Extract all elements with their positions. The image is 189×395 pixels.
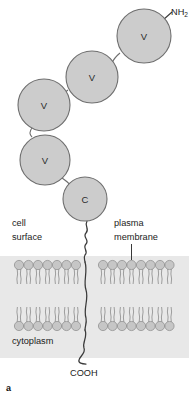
lipid-head <box>71 321 80 330</box>
lipid-head <box>98 321 107 330</box>
lipid-head <box>165 321 174 330</box>
ig-domain-5: C <box>63 177 107 221</box>
ig-domain-letter: C <box>82 194 89 205</box>
lipid-head <box>14 260 23 269</box>
lipid-head <box>62 321 71 330</box>
ig-domain-4: V <box>20 135 70 185</box>
immunoglobulin-superfamily-receptor-diagram: V V V V C NH2 cell surface <box>0 0 189 395</box>
plasma-membrane-label-line2: membrane <box>114 232 158 242</box>
lipid-head <box>62 260 71 269</box>
lipid-head <box>24 260 33 269</box>
lipid-head <box>117 321 126 330</box>
ig-domain-letter: V <box>42 155 49 166</box>
lipid-head <box>136 321 145 330</box>
ig-domain-letter: V <box>141 31 148 42</box>
n-terminus-subscript: 2 <box>184 11 188 18</box>
lipid-head <box>146 321 155 330</box>
lipid-head <box>33 321 42 330</box>
lipid-head <box>136 260 145 269</box>
lipid-head <box>43 321 52 330</box>
lipid-head <box>127 260 136 269</box>
lipid-head <box>108 260 117 269</box>
lipid-head <box>43 260 52 269</box>
figure-panel-a: V V V V C NH2 cell surface <box>0 0 189 395</box>
lipid-head <box>71 260 80 269</box>
lipid-head <box>52 321 61 330</box>
c-terminus-label: COOH <box>70 368 98 378</box>
lipid-head <box>165 260 174 269</box>
lipid-head <box>117 260 126 269</box>
lipid-head <box>33 260 42 269</box>
lipid-head <box>155 321 164 330</box>
lipid-head <box>146 260 155 269</box>
ig-domain-2: V <box>66 51 118 103</box>
n-terminus-text: NH <box>171 7 184 17</box>
ig-domain-letter: V <box>89 72 96 83</box>
cell-surface-label-line2: surface <box>12 232 42 242</box>
ig-domain-3: V <box>18 79 70 131</box>
lipid-head <box>108 321 117 330</box>
lipid-head <box>98 260 107 269</box>
lipid-head <box>24 321 33 330</box>
ig-domain-1: V <box>117 9 171 63</box>
ig-domain-letter: V <box>41 100 48 111</box>
cell-surface-label-line1: cell <box>12 218 26 228</box>
cytoplasm-label: cytoplasm <box>12 336 54 346</box>
lipid-head <box>52 260 61 269</box>
lipid-head <box>14 321 23 330</box>
lipid-head <box>127 321 136 330</box>
plasma-membrane-label-line1: plasma <box>114 218 145 228</box>
lipid-head <box>155 260 164 269</box>
